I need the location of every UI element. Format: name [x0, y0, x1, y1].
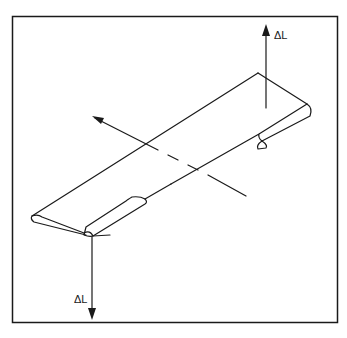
lift-up-label: ΔL: [274, 29, 287, 41]
lift-up-arrowhead-icon: [262, 24, 270, 36]
wing-right-tip-edge: [258, 73, 307, 104]
right-aileron: [171, 104, 311, 184]
wing-trailing-edge: [145, 184, 171, 199]
roll-axis-arrowhead-icon: [92, 116, 104, 124]
wing-leading-edge: [32, 73, 258, 216]
lift-down-arrowhead-icon: [88, 308, 96, 320]
wing-diagram: ΔL ΔL: [0, 0, 347, 338]
left-aileron: [84, 197, 147, 237]
lift-down-label: ΔL: [74, 293, 87, 305]
frame-border: [13, 17, 338, 323]
